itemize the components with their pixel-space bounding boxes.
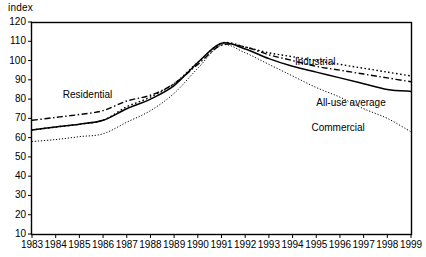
y-tick-label: 10: [0, 229, 26, 239]
y-tick-label: 60: [0, 133, 26, 143]
y-tick-label: 80: [0, 94, 26, 104]
y-tick-label: 70: [0, 113, 26, 123]
y-tick-label: 30: [0, 190, 26, 200]
y-tick-label: 50: [0, 152, 26, 162]
series-line: [32, 42, 411, 129]
series-line: [32, 43, 411, 130]
price-index-line-chart: index 120110100908070605040302010 198319…: [0, 0, 426, 257]
y-tick-label: 120: [0, 17, 26, 27]
series-label-residential: Residential: [63, 89, 112, 100]
series-label-all-use-average: All-use average: [316, 97, 385, 108]
series-label-commercial: Commercial: [312, 122, 365, 133]
y-tick-label: 100: [0, 56, 26, 66]
y-tick-label: 20: [0, 210, 26, 220]
x-tick-label: 1999: [396, 240, 426, 250]
series-label-industrial: Industrial: [295, 56, 336, 67]
y-tick-label: 110: [0, 36, 26, 46]
y-tick-label: 90: [0, 75, 26, 85]
y-tick-label: 40: [0, 171, 26, 181]
